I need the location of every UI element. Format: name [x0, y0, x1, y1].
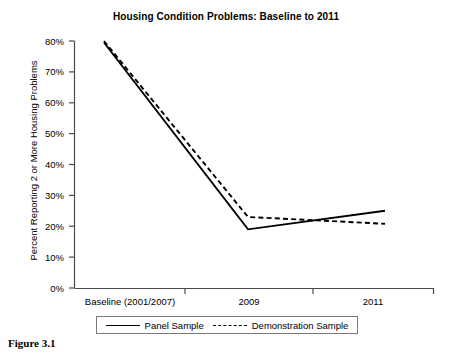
y-tick-label-50: 50% — [45, 128, 65, 139]
series-line-demonstration-sample — [104, 41, 385, 224]
x-axis-ticks — [185, 289, 434, 295]
x-tick-label-2009: 2009 — [238, 296, 259, 307]
legend-label-demonstration-sample: Demonstration Sample — [252, 320, 349, 331]
figure-caption: Figure 3.1 — [8, 337, 55, 349]
x-tick-label-2011: 2011 — [363, 296, 383, 307]
legend-swatch-solid-line-icon — [106, 325, 140, 326]
legend-swatch-dashed-line-icon — [213, 325, 247, 326]
y-tick-label-30: 30% — [45, 190, 65, 201]
series-line-panel-sample — [104, 43, 385, 230]
legend-label-panel-sample: Panel Sample — [145, 320, 204, 331]
y-tick-label-70: 70% — [45, 66, 65, 77]
figure-container: Housing Condition Problems: Baseline to … — [0, 0, 452, 356]
y-tick-label-20: 20% — [45, 221, 65, 232]
y-tick-label-10: 10% — [45, 252, 65, 263]
y-tick-label-80: 80% — [45, 36, 65, 47]
x-tick-label-baseline: Baseline (2001/2007) — [85, 296, 175, 307]
y-tick-label-40: 40% — [45, 159, 65, 170]
y-tick-label-0: 0% — [50, 283, 64, 294]
y-tick-label-60: 60% — [45, 97, 65, 108]
legend-item-panel-sample: Panel Sample — [106, 320, 204, 331]
chart-legend: Panel Sample Demonstration Sample — [96, 316, 358, 334]
y-axis-ticks — [69, 41, 75, 288]
plot-area: 80% 70% 60% 50% 40% 30% 20% 10% 0% Basel… — [0, 0, 452, 356]
legend-item-demonstration-sample: Demonstration Sample — [213, 320, 349, 331]
